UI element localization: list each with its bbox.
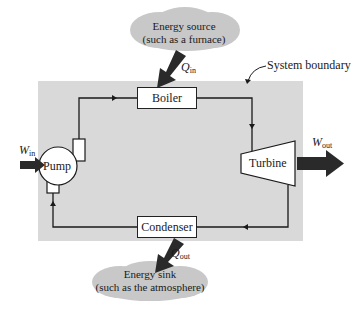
condenser-box: Condenser — [137, 216, 197, 238]
energy-source-line1: Energy source — [134, 20, 234, 33]
w-out-arrow — [297, 150, 344, 177]
w-out-subscript: out — [322, 141, 332, 150]
q-out-label: Qout — [171, 246, 190, 261]
q-out-symbol: Q — [171, 246, 180, 260]
system-boundary-label: System boundary — [267, 58, 351, 73]
turbine-label: Turbine — [249, 156, 287, 171]
condenser-label: Condenser — [141, 220, 192, 235]
q-in-label: Qin — [181, 60, 196, 75]
energy-source-text: Energy source (such as a furnace) — [134, 20, 234, 46]
w-in-label: Win — [19, 143, 35, 158]
w-out-label: Wout — [312, 135, 332, 150]
q-out-subscript: out — [180, 252, 190, 261]
boiler-box: Boiler — [137, 87, 197, 109]
w-in-symbol: W — [19, 143, 29, 157]
q-in-subscript: in — [190, 66, 196, 75]
energy-source-line2: (such as a furnace) — [134, 33, 234, 46]
q-in-symbol: Q — [181, 60, 190, 74]
diagram-lines — [0, 0, 362, 314]
energy-sink-text: Energy sink (such as the atmosphere) — [95, 268, 205, 294]
boiler-label: Boiler — [152, 91, 182, 106]
w-out-symbol: W — [312, 135, 322, 149]
energy-sink-line1: Energy sink — [95, 268, 205, 281]
pump-label: Pump — [43, 159, 71, 174]
energy-sink-line2: (such as the atmosphere) — [95, 281, 205, 294]
w-in-subscript: in — [29, 149, 35, 158]
